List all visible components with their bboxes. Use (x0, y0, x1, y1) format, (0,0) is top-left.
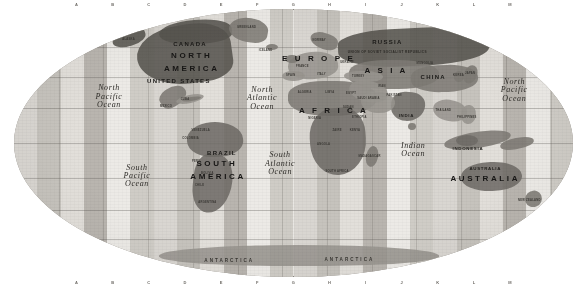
grid-reference-letter: M (508, 2, 512, 7)
ocean-label: IndianOcean (401, 141, 426, 158)
country-label: INDIA (399, 114, 414, 119)
country-label: ANGOLA (317, 143, 330, 146)
country-label: NIGERIA (308, 117, 321, 120)
country-label: PHILIPPINES (457, 116, 476, 119)
grid-reference-letter: F (256, 2, 259, 7)
country-label: INDONESIA (453, 146, 484, 151)
country-label: AUSTRALIA (469, 166, 501, 171)
country-label: THAILAND (435, 109, 451, 112)
grid-reference-letter: E (220, 2, 223, 7)
country-subtitle-label: UNION OF SOVIET SOCIALIST REPUBLICS (348, 51, 427, 54)
country-label: ALGERIA (298, 92, 312, 95)
country-label: SAUDI ARABIA (357, 98, 379, 101)
country-label: KENYA (350, 130, 360, 133)
grid-reference-letter: J (401, 2, 404, 7)
grid-reference-letter: B (111, 280, 114, 285)
ocean-label: NorthAtlanticOcean (247, 86, 277, 111)
country-label: ZAIRE (332, 130, 341, 133)
country-label: ICELAND (259, 49, 273, 52)
country-label: NORWAY (313, 40, 326, 43)
continent-label: AMERICA (190, 173, 246, 181)
grid-reference-letter: D (183, 2, 186, 7)
country-label: SOUTH AFRICA (325, 170, 348, 173)
grid-reference-letter: L (473, 280, 476, 285)
grid-reference-letter: M (508, 280, 512, 285)
country-label: TURKEY (352, 76, 365, 79)
grid-reference-letter: B (111, 2, 114, 7)
parallel-line (14, 47, 573, 48)
meridian-line (282, 9, 283, 277)
country-label: BOLIVIA (201, 172, 214, 175)
world-time-zone-map: ABCDEFGHIJKLM NORTHAMERICASOUTHAMERICAA … (0, 0, 587, 286)
grid-reference-letter: I (365, 280, 367, 285)
country-label: ALASKA (122, 38, 135, 41)
country-label: ETHIOPIA (352, 117, 367, 120)
continent-label: A S I A (365, 67, 408, 75)
country-label: GREENLAND (237, 27, 256, 30)
country-label: CUBA (181, 99, 190, 102)
parallel-line (14, 210, 573, 211)
continent-label: SOUTH (196, 160, 237, 168)
country-label: FRANCE (296, 65, 309, 68)
grid-reference-letter: C (147, 2, 150, 7)
grid-reference-letter: A (75, 2, 78, 7)
continent-label: AUSTRALIA (450, 174, 520, 182)
continent-label: AMERICA (164, 65, 220, 73)
country-label: RUSSIA (372, 39, 402, 45)
grid-reference-letter: C (147, 280, 150, 285)
country-label: COLOMBIA (182, 138, 199, 141)
country-label: SPAIN (286, 75, 295, 78)
grid-reference-letter: H (328, 280, 331, 285)
land-borneo (456, 135, 478, 146)
country-label: MEXICO (160, 105, 172, 108)
country-label: CANADA (173, 41, 207, 47)
country-label: UNITED STATES (147, 78, 211, 84)
country-label: SUDAN (343, 107, 354, 110)
polar-region-label: ANTARCTICA (325, 257, 375, 262)
grid-reference-letter: G (292, 280, 296, 285)
grid-reference-letter: E (220, 280, 223, 285)
ocean-label: SouthPacificOcean (124, 164, 151, 189)
grid-reference-letter: K (436, 2, 439, 7)
meridian-line (59, 9, 60, 277)
grid-reference-letter: J (401, 280, 404, 285)
polar-region-label: ANTARCTICA (204, 259, 254, 264)
continent-label: NORTH (171, 52, 212, 60)
meridian-line (103, 9, 104, 277)
country-label: MADAGASCAR (358, 156, 380, 159)
grid-reference-letter: H (328, 2, 331, 7)
grid-reference-letter: K (436, 280, 439, 285)
meridian-line (551, 9, 552, 277)
grid-reference-letter: G (292, 2, 296, 7)
country-label: PERU (192, 160, 200, 163)
country-label: CHINA (421, 74, 447, 80)
country-label: CHILE (195, 184, 204, 187)
country-label: NEW ZEALAND (518, 199, 541, 202)
grid-reference-letter: A (75, 280, 78, 285)
country-label: BRAZIL (207, 149, 237, 155)
grid-reference-letter: I (365, 2, 367, 7)
country-label: VENEZUELA (191, 130, 210, 133)
country-label: LIBYA (325, 91, 334, 94)
country-label: ARGENTINA (198, 202, 216, 205)
country-label: KOREA (453, 75, 464, 78)
land-antarctica-strip (159, 245, 439, 266)
grid-reference-letter: D (183, 280, 186, 285)
ocean-label: SouthAtlanticOcean (265, 152, 295, 177)
ocean-label: NorthPacificOcean (96, 85, 123, 110)
country-label: MONGOLIA (416, 62, 433, 65)
country-label: IRAN (378, 85, 386, 88)
globe-ellipse: NORTHAMERICASOUTHAMERICAA F R I C AA S I… (14, 9, 573, 277)
country-label: PAKISTAN (386, 95, 401, 98)
country-label: EGYPT (346, 92, 356, 95)
country-label: JAPAN (465, 72, 475, 75)
grid-reference-letter: L (473, 2, 476, 7)
land-sri-lanka (408, 123, 416, 130)
continent-label: A F R I C A (299, 107, 368, 115)
country-label: UKRAINE (340, 61, 354, 64)
country-label: ITALY (317, 73, 326, 76)
grid-reference-letter: F (256, 280, 259, 285)
parallel-line (14, 239, 573, 240)
ocean-label: NorthPacificOcean (501, 78, 528, 103)
